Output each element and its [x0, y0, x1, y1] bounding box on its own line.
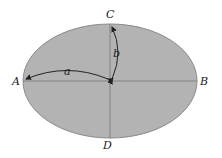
- point-D: D: [102, 139, 112, 152]
- point-C: C: [106, 8, 115, 21]
- ellipse-diagram: a b A B C D: [0, 0, 222, 158]
- point-B: B: [199, 75, 208, 88]
- label-b: b: [113, 47, 120, 60]
- point-A: A: [11, 75, 20, 88]
- label-a: a: [64, 65, 71, 78]
